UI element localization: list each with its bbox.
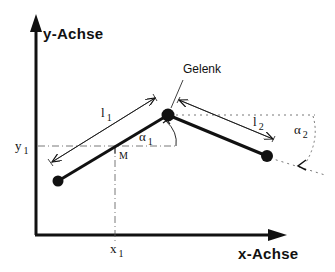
x-axis-label: x-Achse xyxy=(238,246,298,261)
base-endpoint xyxy=(53,176,64,187)
x-axis xyxy=(35,229,287,241)
x-axis-arrowhead-icon xyxy=(268,229,287,241)
link-dimensions xyxy=(48,80,275,166)
gelenk-joint xyxy=(162,109,175,122)
gelenk-label: Gelenk xyxy=(183,63,221,75)
arm-links xyxy=(58,115,267,181)
midpoint-label: M xyxy=(119,151,128,161)
y1-label: y1 xyxy=(15,139,29,152)
y-axis-arrowhead-icon xyxy=(30,14,42,32)
guide-lines xyxy=(38,115,325,243)
l1-label: l1 xyxy=(101,106,112,119)
l2-label: l2 xyxy=(253,115,264,128)
gelenk-pointer-line xyxy=(171,80,183,108)
alpha1-label: α1 xyxy=(139,130,153,143)
alpha2-label: α2 xyxy=(294,123,308,136)
end-effector-point xyxy=(261,150,273,162)
y-axis xyxy=(30,14,42,235)
x1-label: x1 xyxy=(110,242,124,255)
y-axis-label: y-Achse xyxy=(43,26,103,41)
alpha1-arc xyxy=(166,121,176,146)
